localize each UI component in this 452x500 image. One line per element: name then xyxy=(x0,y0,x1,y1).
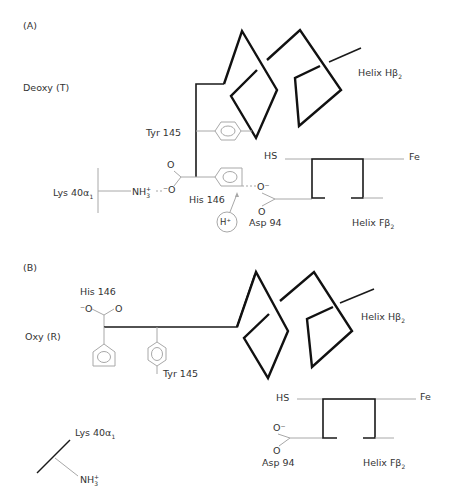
lys40-nh3-a: NH3+ xyxy=(132,185,151,199)
tyr145-ring-a xyxy=(215,122,252,140)
helix-h-label-b: Helix Hβ2 xyxy=(361,311,405,324)
his146-ring-a xyxy=(215,168,242,186)
his146-o-top-a: O xyxy=(167,159,174,170)
tyr145-label-a: Tyr 145 xyxy=(145,127,181,138)
his146-ring-b xyxy=(93,344,115,366)
asp94-label-a: Asp 94 xyxy=(249,217,282,228)
his146-o-minus-b: ⁻O xyxy=(80,303,93,314)
lys40-backbone-b xyxy=(37,440,70,473)
asp94-o-minus-a: O⁻ xyxy=(257,181,270,192)
helix-h-label-a: Helix Hβ2 xyxy=(358,67,402,80)
his146-o-b: O xyxy=(115,303,122,314)
asp94-carboxylate-a xyxy=(262,193,275,206)
his146-o-minus-a: ⁻O xyxy=(163,184,176,195)
helix-f-beta2-ribbon-b xyxy=(323,399,375,438)
helix-h-beta2-ribbon-b xyxy=(237,272,374,378)
helix-h-beta2-ribbon xyxy=(224,30,361,138)
panel-a-state-label: Deoxy (T) xyxy=(23,82,69,93)
asp94-o-a: O xyxy=(258,206,265,217)
lys40-label-b: Lys 40α1 xyxy=(75,427,115,440)
panel-a-tag: (A) xyxy=(23,20,37,31)
his146-label-b: His 146 xyxy=(80,286,116,297)
fe-label-b: Fe xyxy=(420,391,431,402)
lys40-nh3-b: NH3+ xyxy=(80,473,99,487)
his146-carboxylate-b xyxy=(92,309,114,315)
helix-f-label-b: Helix Fβ2 xyxy=(363,457,405,470)
hs-label-a: HS xyxy=(264,150,277,161)
panel-a: (A) Deoxy (T) Helix Hβ2 Tyr 145 O ⁻O His xyxy=(23,20,420,232)
hemoglobin-salt-bridge-diagram: (A) Deoxy (T) Helix Hβ2 Tyr 145 O ⁻O His xyxy=(0,0,452,500)
panel-b-state-label: Oxy (R) xyxy=(25,331,61,342)
proton-label: H⁺ xyxy=(220,217,231,227)
lys40-sidechain-b xyxy=(55,458,78,476)
helix-f-label-a: Helix Fβ2 xyxy=(352,217,394,230)
panel-b: (B) Oxy (R) His 146 ⁻O O Tyr 145 He xyxy=(23,262,431,487)
asp94-o-minus-b: O⁻ xyxy=(273,422,286,433)
asp94-o-b: O xyxy=(273,445,280,456)
proton-arrow-head xyxy=(235,192,239,197)
hs-label-b: HS xyxy=(276,392,289,403)
his146-label-a: His 146 xyxy=(189,194,225,205)
fe-label-a: Fe xyxy=(409,151,420,162)
panel-b-tag: (B) xyxy=(23,262,37,273)
helix-f-beta2-ribbon-a xyxy=(312,159,363,198)
tyr145-label-b: Tyr 145 xyxy=(162,368,198,379)
c-terminal-backbone-b xyxy=(104,274,255,327)
lys40-label-a: Lys 40α1 xyxy=(53,187,93,200)
asp94-label-b: Asp 94 xyxy=(262,457,295,468)
